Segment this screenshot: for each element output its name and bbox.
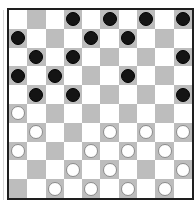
board-square-r1-c7[interactable] [137, 29, 155, 48]
board-square-r2-c5[interactable] [100, 48, 118, 67]
white-checker-piece[interactable] [48, 182, 62, 196]
board-square-r7-c0[interactable] [9, 142, 27, 161]
white-checker-piece[interactable] [139, 125, 153, 139]
board-square-r4-c0[interactable] [9, 85, 27, 104]
checkers-board[interactable] [7, 8, 194, 200]
black-checker-piece[interactable] [176, 12, 190, 26]
board-square-r6-c1[interactable] [27, 123, 45, 142]
board-square-r3-c6[interactable] [119, 66, 137, 85]
white-checker-piece[interactable] [103, 125, 117, 139]
black-checker-piece[interactable] [84, 31, 98, 45]
white-checker-piece[interactable] [103, 163, 117, 177]
black-checker-piece[interactable] [176, 50, 190, 64]
board-square-r8-c5[interactable] [100, 160, 118, 179]
white-checker-piece[interactable] [84, 182, 98, 196]
white-checker-piece[interactable] [158, 144, 172, 158]
board-square-r5-c6[interactable] [119, 104, 137, 123]
black-checker-piece[interactable] [66, 50, 80, 64]
board-square-r2-c0[interactable] [9, 48, 27, 67]
white-checker-piece[interactable] [158, 182, 172, 196]
black-checker-piece[interactable] [48, 69, 62, 83]
board-square-r6-c0[interactable] [9, 123, 27, 142]
board-square-r8-c6[interactable] [119, 160, 137, 179]
board-square-r8-c4[interactable] [82, 160, 100, 179]
board-square-r5-c7[interactable] [137, 104, 155, 123]
board-square-r3-c9[interactable] [174, 66, 192, 85]
board-square-r9-c3[interactable] [64, 179, 82, 198]
board-square-r1-c9[interactable] [174, 29, 192, 48]
board-square-r1-c8[interactable] [155, 29, 173, 48]
board-square-r5-c8[interactable] [155, 104, 173, 123]
board-square-r9-c2[interactable] [46, 179, 64, 198]
board-square-r9-c1[interactable] [27, 179, 45, 198]
board-square-r5-c3[interactable] [64, 104, 82, 123]
board-square-r2-c7[interactable] [137, 48, 155, 67]
board-square-r4-c3[interactable] [64, 85, 82, 104]
white-checker-piece[interactable] [11, 144, 25, 158]
board-square-r0-c1[interactable] [27, 10, 45, 29]
board-square-r0-c9[interactable] [174, 10, 192, 29]
board-square-r0-c6[interactable] [119, 10, 137, 29]
black-checker-piece[interactable] [121, 69, 135, 83]
black-checker-piece[interactable] [176, 88, 190, 102]
white-checker-piece[interactable] [11, 106, 25, 120]
board-square-r0-c3[interactable] [64, 10, 82, 29]
board-square-r8-c3[interactable] [64, 160, 82, 179]
board-square-r8-c1[interactable] [27, 160, 45, 179]
white-checker-piece[interactable] [121, 182, 135, 196]
board-square-r6-c8[interactable] [155, 123, 173, 142]
board-square-r1-c2[interactable] [46, 29, 64, 48]
board-square-r4-c1[interactable] [27, 85, 45, 104]
white-checker-piece[interactable] [84, 144, 98, 158]
board-square-r4-c5[interactable] [100, 85, 118, 104]
board-square-r2-c1[interactable] [27, 48, 45, 67]
board-square-r2-c2[interactable] [46, 48, 64, 67]
board-square-r1-c0[interactable] [9, 29, 27, 48]
board-square-r2-c9[interactable] [174, 48, 192, 67]
board-square-r2-c8[interactable] [155, 48, 173, 67]
board-square-r8-c7[interactable] [137, 160, 155, 179]
board-square-r1-c3[interactable] [64, 29, 82, 48]
black-checker-piece[interactable] [11, 69, 25, 83]
board-square-r6-c7[interactable] [137, 123, 155, 142]
board-square-r2-c6[interactable] [119, 48, 137, 67]
board-square-r5-c9[interactable] [174, 104, 192, 123]
board-square-r3-c5[interactable] [100, 66, 118, 85]
board-square-r3-c1[interactable] [27, 66, 45, 85]
board-square-r6-c6[interactable] [119, 123, 137, 142]
board-square-r8-c9[interactable] [174, 160, 192, 179]
black-checker-piece[interactable] [66, 12, 80, 26]
board-square-r4-c6[interactable] [119, 85, 137, 104]
board-square-r9-c0[interactable] [9, 179, 27, 198]
board-square-r1-c4[interactable] [82, 29, 100, 48]
board-square-r3-c8[interactable] [155, 66, 173, 85]
board-square-r5-c4[interactable] [82, 104, 100, 123]
board-square-r6-c9[interactable] [174, 123, 192, 142]
board-square-r6-c4[interactable] [82, 123, 100, 142]
board-square-r9-c8[interactable] [155, 179, 173, 198]
black-checker-piece[interactable] [103, 12, 117, 26]
board-square-r9-c5[interactable] [100, 179, 118, 198]
board-square-r1-c5[interactable] [100, 29, 118, 48]
white-checker-piece[interactable] [29, 125, 43, 139]
white-checker-piece[interactable] [121, 144, 135, 158]
board-square-r5-c1[interactable] [27, 104, 45, 123]
board-square-r3-c3[interactable] [64, 66, 82, 85]
board-square-r9-c7[interactable] [137, 179, 155, 198]
board-square-r6-c2[interactable] [46, 123, 64, 142]
board-square-r9-c6[interactable] [119, 179, 137, 198]
board-square-r3-c0[interactable] [9, 66, 27, 85]
board-square-r7-c3[interactable] [64, 142, 82, 161]
board-square-r4-c4[interactable] [82, 85, 100, 104]
board-square-r3-c4[interactable] [82, 66, 100, 85]
board-square-r0-c7[interactable] [137, 10, 155, 29]
board-square-r0-c5[interactable] [100, 10, 118, 29]
white-checker-piece[interactable] [176, 163, 190, 177]
board-square-r6-c3[interactable] [64, 123, 82, 142]
board-square-r0-c8[interactable] [155, 10, 173, 29]
board-square-r7-c1[interactable] [27, 142, 45, 161]
board-square-r7-c2[interactable] [46, 142, 64, 161]
black-checker-piece[interactable] [121, 31, 135, 45]
board-square-r7-c7[interactable] [137, 142, 155, 161]
board-square-r9-c9[interactable] [174, 179, 192, 198]
